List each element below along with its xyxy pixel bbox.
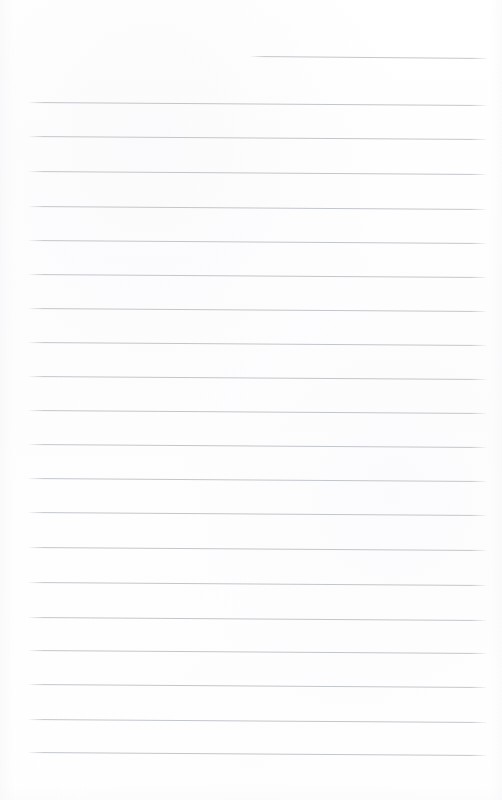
rule-line <box>28 617 486 621</box>
rule-line <box>28 102 486 106</box>
rule-line <box>28 752 486 756</box>
rule-line <box>28 582 486 586</box>
rule-line <box>28 308 486 312</box>
rule-line <box>28 444 486 448</box>
rule-line <box>28 206 486 210</box>
rule-line <box>28 719 486 723</box>
rule-line <box>28 650 486 654</box>
rule-line <box>28 547 486 551</box>
rule-line <box>250 56 487 59</box>
rule-line <box>28 376 486 380</box>
writing-area[interactable] <box>0 0 502 800</box>
rule-line <box>28 136 486 140</box>
rule-line <box>28 240 486 244</box>
rule-line <box>28 171 486 175</box>
notebook-page <box>0 0 502 800</box>
rule-line <box>28 274 486 278</box>
rule-line <box>28 410 486 414</box>
rule-line <box>28 478 486 482</box>
rule-line <box>28 684 486 688</box>
rule-line <box>28 342 486 346</box>
rule-line <box>28 512 486 516</box>
